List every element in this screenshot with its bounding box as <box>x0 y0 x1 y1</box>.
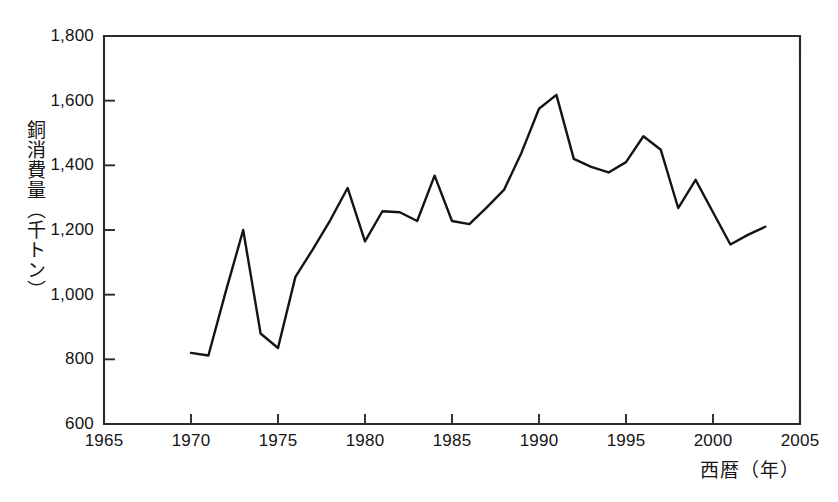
x-axis-title: 西暦（年） <box>700 455 800 482</box>
y-tick-label: 1,600 <box>0 92 94 109</box>
y-tick-label: 600 <box>0 415 94 432</box>
y-tick-label: 1,800 <box>0 27 94 44</box>
chart-container: 6008001,0001,2001,4001,6001,800 19651970… <box>0 0 838 502</box>
x-tick-label: 2000 <box>673 432 753 449</box>
x-tick-label: 1980 <box>325 432 405 449</box>
y-axis-ticks <box>104 101 115 360</box>
x-tick-label: 1995 <box>586 432 666 449</box>
axis-frame <box>104 36 800 424</box>
axis-frame-top-edge <box>104 36 800 60</box>
x-axis-ticks <box>191 414 713 424</box>
x-tick-label: 1985 <box>412 432 492 449</box>
y-tick-label: 800 <box>0 350 94 367</box>
x-tick-label: 1990 <box>499 432 579 449</box>
x-tick-label: 1970 <box>151 432 231 449</box>
x-tick-label: 2005 <box>760 432 838 449</box>
chart-plot-area <box>0 0 838 502</box>
y-axis-title: 銅消費量（千トン） <box>14 120 44 300</box>
chart-axes <box>104 36 800 424</box>
x-tick-label: 1975 <box>238 432 318 449</box>
x-tick-label: 1965 <box>64 432 144 449</box>
data-series-line <box>191 95 765 356</box>
